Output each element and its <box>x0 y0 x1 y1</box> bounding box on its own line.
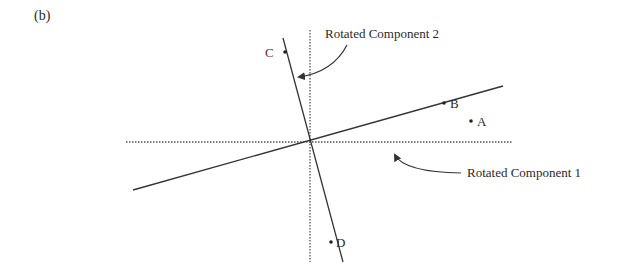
rotated-component-2-line <box>283 38 343 262</box>
point-b-label: B <box>450 96 459 111</box>
rotated-component-1-line <box>133 86 503 190</box>
pca-rotation-diagram: (b) A B C D Rotated Component 2 Rotated … <box>0 0 624 276</box>
point-d-dot <box>329 240 333 244</box>
point-a-label: A <box>477 114 487 129</box>
rotated-component-1-arrow-icon <box>395 155 461 173</box>
point-c: C <box>265 45 287 60</box>
point-a-dot <box>469 119 473 123</box>
rotated-component-2-label: Rotated Component 2 <box>325 26 439 41</box>
point-c-label: C <box>265 45 274 60</box>
point-c-dot <box>283 50 287 54</box>
rotated-component-2-arrow-icon <box>299 45 347 77</box>
panel-label: (b) <box>34 8 51 24</box>
point-d-label: D <box>336 235 345 250</box>
point-b-dot <box>442 101 446 105</box>
point-a: A <box>469 114 487 129</box>
point-d: D <box>329 235 345 250</box>
rotated-component-1-label: Rotated Component 1 <box>467 165 581 180</box>
point-b: B <box>442 96 459 111</box>
